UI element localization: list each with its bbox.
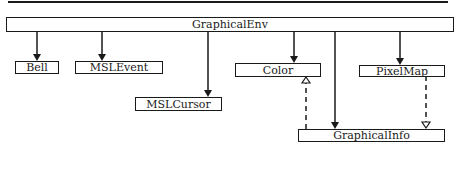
arrow-graphicalenv-mslevent [98,31,106,61]
arrow-graphicalenv-graphicalinfo [331,31,339,129]
node-label: MSLCursor [146,99,210,110]
node-bell: Bell [15,61,59,74]
node-color: Color [235,63,321,77]
node-label: GraphicalEnv [192,19,268,30]
dashed-arrow-graphicalinfo-color [302,77,310,129]
arrow-graphicalenv-color [290,31,298,63]
node-label: Bell [26,62,48,73]
node-label: PixelMap [376,66,428,77]
node-mslcursor: MSLCursor [135,97,222,111]
node-graphicalenv: GraphicalEnv [6,17,454,32]
arrow-graphicalenv-bell [33,31,41,61]
dashed-arrow-graphicalinfo-pixelmap [422,76,430,128]
node-graphicalinfo: GraphicalInfo [298,129,445,142]
arrow-graphicalenv-pixelmap [396,31,404,65]
node-mslevent: MSLEvent [75,61,163,74]
arrow-graphicalenv-mslcursor [204,31,212,97]
node-label: MSLEvent [90,62,148,73]
node-label: GraphicalInfo [333,130,410,141]
node-label: Color [263,65,293,76]
node-pixelmap: PixelMap [359,65,445,77]
